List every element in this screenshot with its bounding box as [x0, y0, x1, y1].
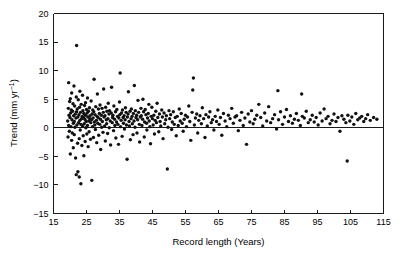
data-point [129, 138, 132, 141]
x-axis-tick-labels: 152535455565758595105115 [48, 217, 390, 227]
data-point [89, 99, 92, 102]
data-point [269, 121, 272, 124]
data-point [148, 119, 151, 122]
data-point [206, 124, 209, 127]
data-point [76, 142, 79, 145]
data-point [277, 118, 280, 121]
data-point [122, 122, 125, 125]
data-point [108, 126, 111, 129]
data-point [131, 122, 134, 125]
data-point [135, 114, 138, 117]
data-point [223, 119, 226, 122]
data-point [111, 121, 114, 124]
data-point [127, 120, 130, 123]
x-tick-label-75: 75 [246, 217, 256, 227]
data-point [300, 92, 303, 95]
data-point [91, 116, 94, 119]
data-point [132, 112, 135, 115]
data-point [145, 122, 148, 125]
data-point [149, 142, 152, 145]
data-point [113, 124, 116, 127]
data-point [75, 44, 78, 47]
data-point [164, 118, 167, 121]
svg-text:Trend (mm yr−1): Trend (mm yr−1) [8, 79, 20, 147]
data-point [168, 117, 171, 120]
data-point [96, 92, 99, 95]
data-point [216, 108, 219, 111]
scatter-chart-figure: 152535455565758595105115 20151050−5−10−1… [0, 0, 404, 267]
data-point [111, 114, 114, 117]
data-point [163, 122, 166, 125]
data-point [276, 89, 279, 92]
data-point [138, 140, 141, 143]
y-axis-title-main: Trend (mm yr [8, 90, 19, 147]
data-point [175, 134, 178, 137]
data-point [134, 109, 137, 112]
data-point [78, 90, 81, 93]
data-point [194, 116, 197, 119]
data-point [98, 103, 101, 106]
data-point [340, 114, 343, 117]
data-point [79, 128, 82, 131]
data-point [283, 115, 286, 118]
y-tick-label-10: 10 [38, 66, 48, 76]
data-point [156, 116, 159, 119]
data-point [106, 132, 109, 135]
data-point [232, 122, 235, 125]
data-point [70, 139, 73, 142]
data-point [102, 87, 105, 90]
data-point [193, 123, 196, 126]
data-point [172, 110, 175, 113]
plot-canvas: 152535455565758595105115 20151050−5−10−1… [0, 0, 404, 267]
data-point [67, 81, 70, 84]
data-point [119, 119, 122, 122]
y-tick-label--15: −15 [33, 209, 48, 219]
data-point [90, 179, 93, 182]
data-point [188, 120, 191, 123]
data-point [162, 111, 165, 114]
data-point [338, 130, 341, 133]
data-point [92, 136, 95, 139]
data-point [176, 115, 179, 118]
data-point [169, 113, 172, 116]
data-point [198, 114, 201, 117]
x-tick-label-95: 95 [312, 217, 322, 227]
data-point [126, 112, 129, 115]
data-point [187, 104, 190, 107]
data-point [222, 112, 225, 115]
data-point [170, 128, 173, 131]
data-point [225, 125, 228, 128]
data-point [116, 123, 119, 126]
data-point [202, 117, 205, 120]
data-point [275, 127, 278, 130]
x-tick-label-115: 115 [376, 217, 390, 227]
data-point [130, 107, 133, 110]
data-point [146, 116, 149, 119]
data-point [228, 117, 231, 120]
data-point [348, 119, 351, 122]
data-point [208, 110, 211, 113]
y-axis-tick-marks [54, 14, 58, 214]
data-point [68, 130, 71, 133]
data-point [143, 135, 146, 138]
data-point [307, 121, 310, 124]
data-point [122, 114, 125, 117]
data-point [330, 119, 333, 122]
y-tick-label-15: 15 [38, 37, 48, 47]
data-point [281, 123, 284, 126]
data-point [67, 107, 70, 110]
data-point [72, 84, 75, 87]
x-tick-label-35: 35 [114, 217, 124, 227]
data-point [303, 116, 306, 119]
data-point [140, 114, 143, 117]
data-point [92, 78, 95, 81]
data-point [110, 86, 113, 89]
data-point [219, 116, 222, 119]
data-point [127, 90, 130, 93]
data-point [336, 116, 339, 119]
x-axis-title: Record length (Years) [172, 236, 264, 247]
data-point [70, 91, 73, 94]
data-point [80, 144, 83, 147]
data-point [227, 114, 230, 117]
data-point [97, 134, 100, 137]
